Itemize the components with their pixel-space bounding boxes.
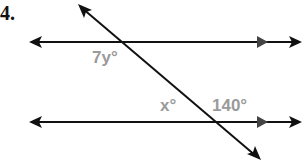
parallel-mark-icon <box>257 36 268 48</box>
transversal-line <box>78 4 261 160</box>
arrow-down-right-icon <box>247 146 261 160</box>
diagram: 4. 7y° x° 140° <box>0 0 306 164</box>
angle-label-x: x° <box>160 96 176 116</box>
bottom-parallel-line <box>29 116 302 128</box>
top-parallel-line <box>29 36 302 48</box>
angle-label-140: 140° <box>212 96 247 116</box>
parallel-lines-figure <box>0 0 306 164</box>
parallel-mark-icon <box>257 116 268 128</box>
angle-label-7y: 7y° <box>92 48 118 68</box>
